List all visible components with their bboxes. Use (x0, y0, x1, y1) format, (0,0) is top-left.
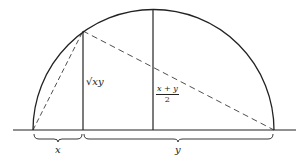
x-segment-label: x (55, 145, 61, 155)
dashed-chord-right (83, 31, 274, 130)
arithmetic-mean-label: x + y 2 (156, 85, 179, 104)
y-segment-label: y (175, 145, 181, 155)
sqrt-xy-label: √xy (86, 77, 104, 87)
fraction-numerator: x + y (156, 85, 179, 95)
x-brace (34, 134, 82, 142)
dashed-chord-left (33, 31, 83, 130)
am-gm-diagram (0, 0, 304, 162)
fraction-denominator: 2 (156, 95, 179, 104)
y-brace (84, 134, 273, 142)
